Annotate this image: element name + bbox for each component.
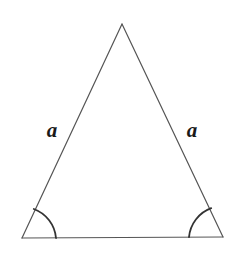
left-side-length-label: a	[47, 120, 58, 141]
right-side-length-label: a	[187, 120, 198, 141]
geometry-figure: a a	[0, 0, 231, 258]
